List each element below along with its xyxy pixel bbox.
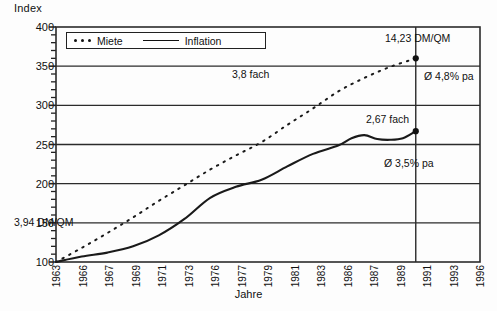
series-line-miete [56, 58, 416, 262]
annotation-miete-rate: Ø 4,8% pa [424, 70, 474, 82]
chart-legend: Miete Inflation [66, 32, 266, 49]
annotation-infl-factor: 2,67 fach [366, 113, 409, 125]
legend-label-inflation: Inflation [185, 35, 222, 47]
miete-dots-icon [74, 39, 91, 42]
annotation-infl-rate: Ø 3,5% pa [384, 157, 434, 169]
chart-container: Index Jahre 100150200250300350400 196319… [0, 0, 497, 311]
annotation-miete-factor: 3,8 fach [232, 68, 269, 80]
series-line-inflation [56, 131, 416, 262]
annotation-miete-end: 14,23 DM/QM [385, 32, 450, 44]
annotation-start-value: 3,94 DM/QM [14, 216, 74, 228]
legend-label-miete: Miete [97, 35, 123, 47]
inflation-line-icon [143, 40, 179, 41]
